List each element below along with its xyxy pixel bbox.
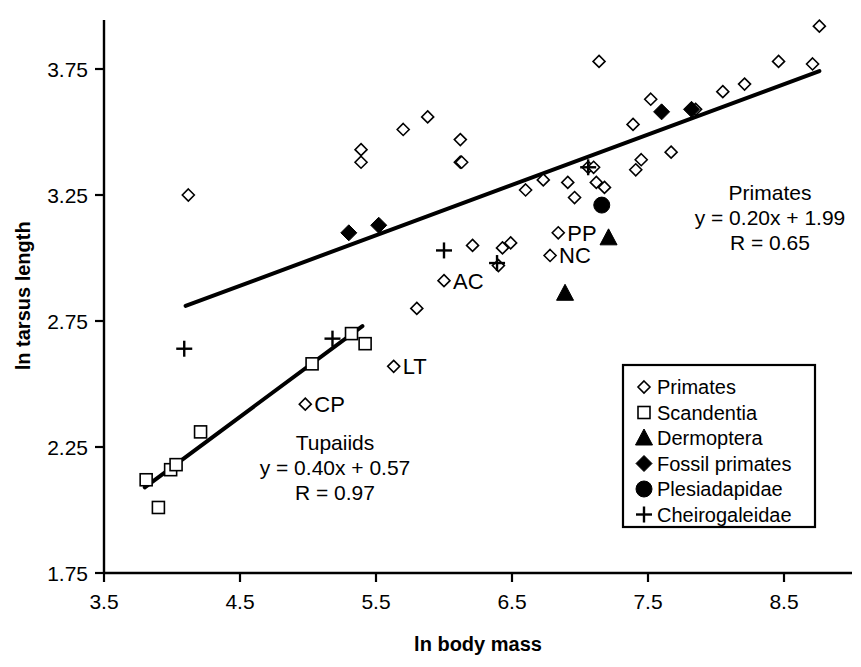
data-point — [436, 242, 452, 258]
data-point — [195, 426, 207, 438]
series-fossil-primates — [341, 101, 700, 240]
data-point — [422, 111, 434, 123]
regression-line-primates — [186, 71, 820, 306]
data-point — [182, 189, 194, 201]
legend-entry-plesiadapidae[interactable]: Plesiadapidae — [636, 478, 783, 500]
legend-label: Scandentia — [657, 402, 758, 424]
primates-annotation-line: y = 0.20x + 1.99 — [695, 206, 846, 229]
data-point — [355, 156, 367, 168]
data-point — [627, 118, 639, 130]
y-tick-label: 1.75 — [47, 562, 88, 585]
data-point — [557, 284, 574, 300]
data-point — [665, 146, 677, 158]
data-point — [569, 192, 581, 204]
data-point — [645, 93, 657, 105]
data-point — [467, 239, 479, 251]
legend-label: Primates — [657, 376, 736, 398]
data-point — [359, 338, 371, 350]
legend-label: Plesiadapidae — [657, 478, 783, 500]
data-point — [600, 229, 617, 245]
x-tick-label: 7.5 — [633, 590, 662, 613]
series-plesiadapidae — [594, 197, 610, 213]
x-tick-label: 5.5 — [361, 590, 390, 613]
data-point — [489, 255, 505, 271]
y-axis-title: ln tarsus length — [12, 221, 34, 370]
data-point — [593, 55, 605, 67]
y-tick-label: 2.75 — [47, 310, 88, 333]
figure-root: 3.54.55.56.57.58.51.752.252.753.253.75ln… — [0, 0, 861, 667]
legend-label: Cheirogaleidae — [657, 504, 792, 526]
data-point — [454, 134, 466, 146]
data-point — [739, 78, 751, 90]
x-tick-label: 8.5 — [769, 590, 798, 613]
data-point — [492, 260, 504, 272]
data-point — [552, 227, 564, 239]
point-label-ac: AC — [453, 269, 484, 294]
legend-marker-solid-circle — [636, 481, 652, 497]
data-point — [299, 398, 311, 410]
data-point — [346, 328, 358, 340]
data-point — [773, 55, 785, 67]
data-point — [654, 104, 670, 120]
series-cheirogaleidae — [176, 159, 596, 356]
legend-entry-cheirogaleidae[interactable]: Cheirogaleidae — [636, 504, 792, 526]
point-label-lt: LT — [403, 354, 427, 379]
data-point — [397, 123, 409, 135]
data-point — [176, 341, 192, 357]
y-tick-label: 2.25 — [47, 436, 88, 459]
x-axis-title: ln body mass — [414, 633, 542, 655]
data-point — [807, 58, 819, 70]
data-point — [388, 360, 400, 372]
legend: PrimatesScandentiaDermopteraFossil prima… — [623, 365, 815, 527]
y-tick-label: 3.75 — [47, 58, 88, 81]
data-point — [152, 501, 164, 513]
x-tick-label: 3.5 — [89, 590, 118, 613]
y-tick-label: 3.25 — [47, 184, 88, 207]
point-label-cp: CP — [314, 392, 345, 417]
legend-label: Dermoptera — [657, 427, 763, 449]
data-point — [170, 459, 182, 471]
point-label-nc: NC — [559, 243, 591, 268]
point-labels-layer: ACLTCPPPNC — [314, 221, 596, 417]
legend-marker-open-square — [638, 407, 650, 419]
tupaiids-annotation-line: Tupaiids — [296, 431, 375, 454]
data-point — [140, 474, 152, 486]
data-point — [520, 184, 532, 196]
tupaiids-annotation-line: y = 0.40x + 0.57 — [260, 456, 411, 479]
data-point — [355, 144, 367, 156]
x-tick-label: 6.5 — [497, 590, 526, 613]
data-point — [562, 176, 574, 188]
data-point — [717, 86, 729, 98]
legend-label: Fossil primates — [657, 453, 791, 475]
data-point — [341, 225, 357, 241]
tupaiids-annotation-line: R = 0.97 — [295, 481, 375, 504]
x-tick-label: 4.5 — [225, 590, 254, 613]
data-point — [594, 197, 610, 213]
legend-entry-fossil-primates[interactable]: Fossil primates — [636, 453, 791, 475]
data-point — [438, 275, 450, 287]
point-label-pp: PP — [567, 221, 596, 246]
primates-annotation-line: Primates — [729, 181, 812, 204]
data-point — [813, 20, 825, 32]
primates-annotation-line: R = 0.65 — [730, 231, 810, 254]
data-point — [411, 302, 423, 314]
data-point — [544, 249, 556, 261]
scatter-plot: 3.54.55.56.57.58.51.752.252.753.253.75ln… — [0, 0, 861, 667]
data-point — [306, 358, 318, 370]
